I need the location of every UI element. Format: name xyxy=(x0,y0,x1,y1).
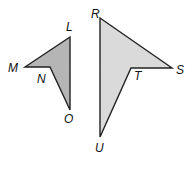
vertex-label-l: L xyxy=(66,20,73,34)
vertex-label-s: S xyxy=(176,63,184,77)
vertex-label-o: O xyxy=(64,112,73,126)
vertex-label-t: T xyxy=(134,69,143,83)
vertex-label-n: N xyxy=(37,72,46,86)
vertex-label-r: R xyxy=(91,7,100,21)
diagram-canvas: L M N O R S T U xyxy=(0,0,196,170)
quadrilateral-lmno xyxy=(25,37,70,110)
vertex-label-u: U xyxy=(95,141,104,155)
vertex-label-m: M xyxy=(8,61,18,75)
